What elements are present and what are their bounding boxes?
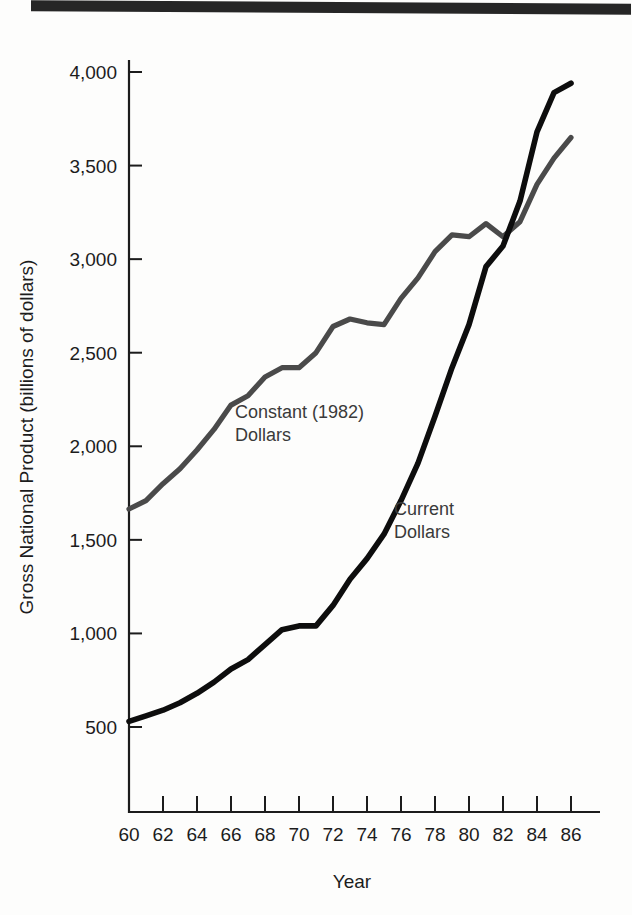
- annotation-constant-dollars-line2: Dollars: [235, 425, 291, 445]
- series-line-constant-dollars: [129, 138, 571, 510]
- annotation-current-dollars-line2: Dollars: [394, 522, 450, 542]
- x-tick-label: 78: [424, 824, 445, 845]
- y-tick-label: 3,500: [69, 156, 117, 177]
- x-tick-label: 84: [526, 824, 548, 845]
- x-tick-label: 74: [356, 824, 378, 845]
- x-tick-label: 80: [458, 824, 479, 845]
- y-tick-label: 3,000: [69, 249, 117, 270]
- x-tick-label: 72: [322, 824, 343, 845]
- annotation-constant-dollars-line1: Constant (1982): [235, 402, 364, 422]
- x-tick-label: 60: [118, 824, 139, 845]
- x-tick-label: 66: [220, 824, 241, 845]
- y-tick-label: 500: [85, 717, 117, 738]
- y-tick-label: 1,500: [69, 530, 117, 551]
- x-axis-ticks: [163, 796, 571, 812]
- x-tick-label: 86: [560, 824, 581, 845]
- x-axis-title: Year: [333, 871, 372, 892]
- figure-page: 4,0003,5003,0002,5002,0001,5001,000500 6…: [0, 0, 632, 915]
- x-tick-label: 64: [186, 824, 208, 845]
- annotation-current-dollars-line1: Current: [394, 499, 454, 519]
- x-tick-label: 76: [390, 824, 411, 845]
- y-axis-tick-labels: 4,0003,5003,0002,5002,0001,5001,000500: [69, 62, 117, 738]
- y-axis-ticks: [129, 72, 142, 727]
- y-tick-label: 2,500: [69, 343, 117, 364]
- x-axis-tick-labels: 6062646668707274767880828486: [118, 824, 581, 845]
- y-axis-title: Gross National Product (billions of doll…: [16, 260, 37, 615]
- chart-canvas: 4,0003,5003,0002,5002,0001,5001,000500 6…: [0, 0, 632, 915]
- x-tick-label: 70: [288, 824, 309, 845]
- gnp-line-chart: 4,0003,5003,0002,5002,0001,5001,000500 6…: [0, 0, 632, 915]
- x-tick-label: 82: [492, 824, 513, 845]
- y-tick-label: 2,000: [69, 436, 117, 457]
- x-tick-label: 68: [254, 824, 275, 845]
- x-tick-label: 62: [152, 824, 173, 845]
- y-tick-label: 1,000: [69, 623, 117, 644]
- y-tick-label: 4,000: [69, 62, 117, 83]
